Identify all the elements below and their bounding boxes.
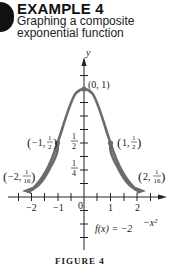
y-axis-label: y	[85, 47, 91, 58]
svg-text:1: 1	[155, 168, 159, 176]
svg-text:): )	[137, 135, 141, 150]
curve-right-arrow-icon	[136, 187, 146, 194]
svg-text:1,: 1,	[122, 137, 130, 148]
svg-text:): )	[31, 169, 35, 184]
svg-text:4: 4	[72, 169, 76, 178]
x-tick-label: −1	[53, 202, 64, 213]
svg-text:): )	[161, 169, 165, 184]
point-0-1	[81, 86, 86, 91]
curve-left-arrow-icon	[22, 187, 32, 194]
svg-text:(: (	[117, 135, 121, 150]
x-tick-label: 0	[78, 200, 83, 211]
y-tick-label-half: 1 2	[71, 132, 78, 151]
svg-text:2: 2	[48, 143, 52, 151]
svg-text:−2,: −2,	[8, 171, 21, 182]
svg-text:1: 1	[72, 132, 76, 141]
svg-text:1: 1	[132, 134, 136, 142]
x-tick-label: −2	[26, 202, 37, 213]
svg-text:(: (	[138, 169, 142, 184]
figure-caption: FIGURE 4	[55, 256, 105, 266]
function-equation: f(x) = −2	[95, 223, 132, 235]
svg-text:2: 2	[72, 142, 76, 151]
svg-text:−1,: −1,	[32, 137, 45, 148]
svg-text:2,: 2,	[143, 171, 151, 182]
label-point-0-1: (0, 1)	[88, 79, 110, 91]
function-equation-exponent: −x²	[143, 217, 158, 228]
svg-text:(: (	[27, 135, 31, 150]
svg-text:16: 16	[154, 177, 162, 185]
svg-text:(: (	[3, 169, 7, 184]
label-point-neg2-sixteenth: ( −2, 1 16 )	[3, 168, 35, 185]
svg-text:): )	[53, 135, 57, 150]
y-axis-arrow-icon	[82, 57, 87, 66]
label-point-neg1-half: ( −1, 1 2 )	[27, 134, 57, 151]
point-1-half	[108, 140, 113, 145]
svg-text:2: 2	[132, 143, 136, 151]
x-tick-label: 1	[108, 202, 113, 213]
svg-text:1: 1	[25, 168, 29, 176]
y-tick-label-quarter: 1 4	[71, 159, 78, 178]
x-tick-label: 2	[135, 202, 140, 213]
label-point-2-sixteenth: ( 2, 1 16 )	[138, 168, 165, 185]
x-axis-arrow-icon	[158, 195, 167, 200]
svg-text:16: 16	[24, 177, 32, 185]
svg-text:1: 1	[72, 159, 76, 168]
svg-text:1: 1	[48, 134, 52, 142]
label-point-1-half: ( 1, 1 2 )	[117, 134, 141, 151]
